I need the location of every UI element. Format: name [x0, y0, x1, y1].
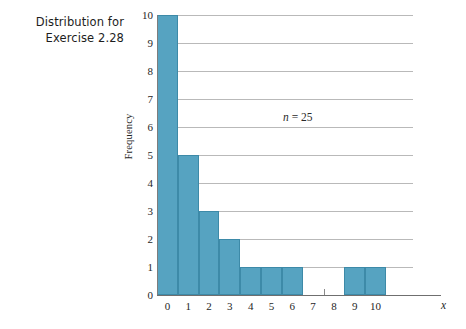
- y-tick-label: 5: [135, 150, 153, 161]
- bar: [157, 15, 178, 295]
- y-tick-label: 4: [135, 178, 153, 189]
- bar: [240, 267, 261, 295]
- gridline-y-8: [157, 71, 413, 72]
- x-axis-minor-tick: [324, 289, 325, 295]
- sample-size-annotation: n = 25: [283, 111, 313, 123]
- bar: [282, 267, 303, 295]
- y-tick-label: 2: [135, 234, 153, 245]
- annotation-equals: =: [289, 111, 301, 123]
- bar: [178, 155, 199, 295]
- y-tick-label: 9: [135, 38, 153, 49]
- bar: [199, 211, 220, 295]
- y-axis-line: [157, 15, 158, 296]
- y-tick-label: 1: [135, 262, 153, 273]
- y-axis-tick-labels: 012345678910: [135, 0, 153, 329]
- bar: [365, 267, 386, 295]
- y-tick-label: 10: [135, 10, 153, 21]
- y-tick-label: 6: [135, 122, 153, 133]
- bar: [344, 267, 365, 295]
- x-axis-line: [157, 295, 441, 296]
- plot-area: [157, 15, 413, 295]
- gridline-y-10: [157, 15, 413, 16]
- gridline-y-7: [157, 99, 413, 100]
- x-tick-label: 10: [364, 300, 388, 312]
- gridline-y-9: [157, 43, 413, 44]
- bar: [261, 267, 282, 295]
- annotation-value: 25: [301, 111, 313, 123]
- y-tick-label: 7: [135, 94, 153, 105]
- y-tick-label: 3: [135, 206, 153, 217]
- x-axis-title: x: [441, 299, 446, 311]
- bar: [219, 239, 240, 295]
- gridline-y-6: [157, 127, 413, 128]
- histogram-chart: 012345678910 012345678910 Frequency x n …: [0, 0, 466, 329]
- y-axis-title: Frequency: [123, 97, 134, 177]
- y-tick-label: 8: [135, 66, 153, 77]
- y-tick-label: 0: [135, 290, 153, 301]
